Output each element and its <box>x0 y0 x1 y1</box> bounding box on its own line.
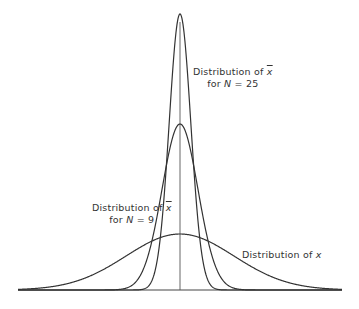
label-text: for <box>109 214 126 225</box>
normal-distributions-plot <box>0 0 359 309</box>
label-var: x <box>267 66 273 77</box>
label-var: x <box>166 202 172 213</box>
label-var: N <box>126 214 133 225</box>
label-text: for <box>207 78 224 89</box>
label-x: Distribution of x <box>242 249 322 261</box>
label-text: Distribution of <box>92 202 166 213</box>
label-n9: Distribution of x for N = 9 <box>92 202 172 226</box>
label-n25: Distribution of x for N = 25 <box>193 66 273 90</box>
label-text: = 25 <box>231 78 258 89</box>
label-text: Distribution of <box>242 249 316 260</box>
label-text: Distribution of <box>193 66 267 77</box>
label-text: = 9 <box>134 214 155 225</box>
label-var: x <box>316 249 322 260</box>
